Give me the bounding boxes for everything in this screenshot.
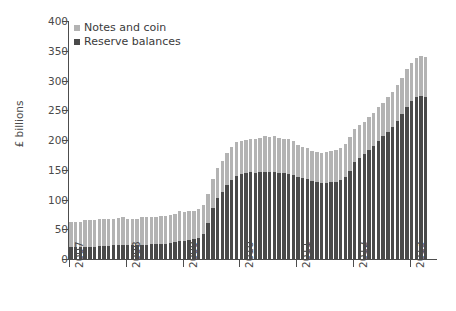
bar-segment-notes-and-coin — [107, 219, 110, 246]
bar-segment-reserve-balances — [396, 121, 399, 259]
bar-segment-notes-and-coin — [121, 217, 124, 245]
bar-segment-notes-and-coin — [202, 205, 205, 234]
bar-segment-notes-and-coin — [419, 56, 422, 96]
x-tick-label: 2013 — [414, 241, 426, 268]
bar-segment-notes-and-coin — [164, 216, 167, 244]
bar-segment-notes-and-coin — [183, 212, 186, 241]
bar-segment-reserve-balances — [221, 192, 224, 259]
bar-segment-reserve-balances — [391, 127, 394, 259]
bar-segment-reserve-balances — [126, 245, 129, 259]
bar-segment-reserve-balances — [315, 182, 318, 259]
x-tick-mark — [126, 260, 127, 267]
bar-segment-reserve-balances — [339, 180, 342, 259]
bar-segment-reserve-balances — [277, 173, 280, 259]
bar-segment-reserve-balances — [415, 97, 418, 259]
legend-item: Reserve balances — [74, 35, 181, 48]
bar-segment-notes-and-coin — [187, 211, 190, 240]
bar-segment-notes-and-coin — [400, 78, 403, 115]
legend-label: Notes and coin — [84, 21, 166, 34]
x-tick-mark — [69, 260, 70, 267]
bar-segment-notes-and-coin — [211, 179, 214, 209]
bar-segment-reserve-balances — [353, 162, 356, 259]
bar-segment-reserve-balances — [173, 242, 176, 259]
bar-segment-notes-and-coin — [377, 107, 380, 141]
bar-segment-reserve-balances — [282, 173, 285, 259]
bar-segment-notes-and-coin — [325, 152, 328, 183]
legend-swatch-icon — [74, 39, 80, 45]
bar-segment-notes-and-coin — [372, 113, 375, 146]
x-tick-label: 2012 — [357, 241, 369, 268]
bar-segment-notes-and-coin — [258, 138, 261, 173]
bar-segment-reserve-balances — [117, 245, 120, 259]
x-tick-mark — [239, 260, 240, 267]
bar-segment-notes-and-coin — [320, 153, 323, 183]
bar-segment-notes-and-coin — [197, 209, 200, 238]
bar-segment-reserve-balances — [169, 243, 172, 259]
bar-segment-reserve-balances — [386, 132, 389, 259]
bar-segment-notes-and-coin — [396, 85, 399, 121]
x-tick-label: 2011 — [300, 241, 312, 268]
bar-segment-reserve-balances — [287, 174, 290, 259]
bar-segment-notes-and-coin — [173, 214, 176, 243]
bar-segment-reserve-balances — [410, 101, 413, 259]
bank-balance-sheet-chart: £ billions 050100150200250300350400 2007… — [0, 0, 456, 311]
bar-segment-reserve-balances — [292, 175, 295, 259]
plot-area — [68, 21, 437, 259]
bar-segment-reserve-balances — [273, 172, 276, 259]
bar-segment-notes-and-coin — [348, 137, 351, 171]
bar-segment-notes-and-coin — [405, 69, 408, 108]
bar-segment-notes-and-coin — [315, 152, 318, 182]
bar-segment-notes-and-coin — [287, 139, 290, 174]
legend-label: Reserve balances — [84, 35, 181, 48]
bar-segment-reserve-balances — [178, 241, 181, 259]
bar-segment-reserve-balances — [263, 172, 266, 259]
y-tick: 50 — [0, 224, 68, 234]
bar-segment-reserve-balances — [206, 223, 209, 259]
y-tick: 100 — [0, 195, 68, 205]
bar-segment-reserve-balances — [164, 244, 167, 259]
bar-segment-notes-and-coin — [117, 218, 120, 245]
bar-segment-reserve-balances — [216, 198, 219, 259]
bar-segment-reserve-balances — [348, 171, 351, 259]
y-tick: 300 — [0, 76, 68, 86]
bar-segment-reserve-balances — [98, 246, 101, 259]
bar-segment-notes-and-coin — [329, 151, 332, 182]
bar-segment-notes-and-coin — [145, 217, 148, 244]
bar-segment-notes-and-coin — [282, 139, 285, 174]
bar-segment-notes-and-coin — [410, 63, 413, 101]
bar-segment-reserve-balances — [93, 247, 96, 259]
bar-segment-notes-and-coin — [235, 142, 238, 176]
bar-segment-notes-and-coin — [93, 220, 96, 247]
bar-segment-notes-and-coin — [363, 122, 366, 155]
bar-segment-notes-and-coin — [296, 145, 299, 177]
bar-segment-reserve-balances — [154, 244, 157, 259]
bar-segment-reserve-balances — [334, 182, 337, 259]
y-tick: 200 — [0, 135, 68, 145]
bar-segment-notes-and-coin — [367, 117, 370, 150]
bar-segment-notes-and-coin — [249, 139, 252, 172]
bar-segment-notes-and-coin — [353, 129, 356, 162]
bar-segment-notes-and-coin — [254, 139, 257, 173]
bar-segment-notes-and-coin — [230, 147, 233, 180]
bar-segment-reserve-balances — [235, 176, 238, 259]
bar-segment-notes-and-coin — [206, 194, 209, 224]
bar-segment-notes-and-coin — [192, 211, 195, 240]
bar-segment-notes-and-coin — [126, 219, 129, 246]
bar-segment-reserve-balances — [150, 244, 153, 259]
bar-segment-notes-and-coin — [150, 217, 153, 244]
y-tick: 400 — [0, 16, 68, 26]
bar-segment-notes-and-coin — [310, 151, 313, 181]
bar-segment-notes-and-coin — [88, 220, 91, 246]
bar-segment-reserve-balances — [88, 247, 91, 259]
bar-segment-notes-and-coin — [415, 58, 418, 97]
x-tick-mark — [353, 260, 354, 267]
bar-segment-notes-and-coin — [301, 147, 304, 179]
bar-segment-notes-and-coin — [112, 219, 115, 246]
bar-segment-reserve-balances — [258, 172, 261, 259]
chart-legend: Notes and coinReserve balances — [74, 21, 181, 49]
bar-segment-reserve-balances — [320, 183, 323, 259]
bar-segment-reserve-balances — [405, 107, 408, 259]
x-tick-mark — [410, 260, 411, 267]
bar-segment-notes-and-coin — [169, 215, 172, 243]
bar-segment-notes-and-coin — [391, 92, 394, 127]
